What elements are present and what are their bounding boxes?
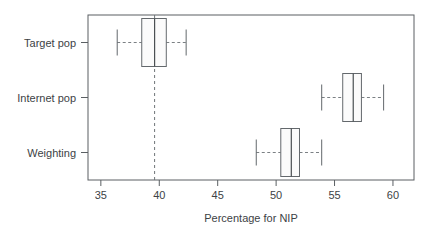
x-tick-label: 40 — [153, 189, 165, 201]
y-tick-label: Target pop — [24, 37, 76, 49]
x-axis-title: Percentage for NIP — [204, 212, 298, 224]
x-tick-label: 55 — [328, 189, 340, 201]
x-tick-label: 45 — [212, 189, 224, 201]
box-rect — [343, 74, 362, 122]
box-rect — [281, 129, 300, 177]
boxplot-figure: 354045505560Percentage for NIPTarget pop… — [0, 0, 438, 233]
x-tick-label: 60 — [387, 189, 399, 201]
x-tick-label: 50 — [270, 189, 282, 201]
plot-canvas: 354045505560Percentage for NIPTarget pop… — [0, 0, 438, 233]
x-tick-label: 35 — [95, 189, 107, 201]
y-tick-label: Internet pop — [17, 92, 76, 104]
plot-frame — [88, 15, 414, 180]
y-tick-label: Weighting — [27, 147, 76, 159]
